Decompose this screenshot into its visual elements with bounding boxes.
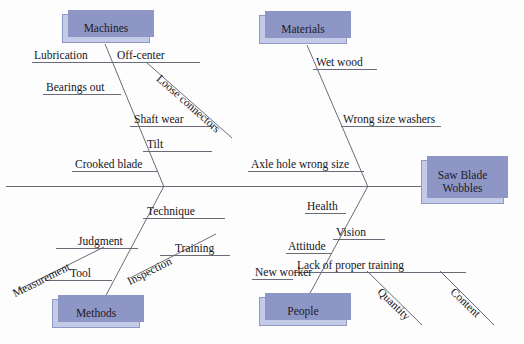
cause-label-tilt: Tilt [147,139,163,151]
cause-label-axle-hole-wrong-size: Axle hole wrong size [251,159,349,171]
category-box-machines[interactable]: Machines [62,14,150,43]
cause-label-bearings-out: Bearings out [46,82,104,94]
cause-label-lack-of-proper-training: Lack of proper training [297,260,404,272]
cause-label-wet-wood: Wet wood [316,57,363,69]
category-label-machines: Machines [84,22,129,35]
problem-label-line2: Wobbles [443,182,483,195]
category-label-materials: Materials [281,23,324,36]
problem-label-line1: Saw Blade [438,169,488,182]
fishbone-diagram: Machines Materials Methods People Saw Bl… [0,0,524,344]
cause-label-vision: Vision [336,227,366,239]
problem-box-saw-blade-wobbles[interactable]: Saw Blade Wobbles [421,160,504,204]
cause-label-technique: Technique [147,206,195,218]
category-label-methods: Methods [76,307,116,320]
category-box-people[interactable]: People [259,297,347,326]
cause-label-attitude: Attitude [288,241,326,253]
cause-label-judgment: Judgment [78,236,123,248]
cause-label-crooked-blade: Crooked blade [75,159,142,171]
cause-label-training: Training [175,243,214,255]
cause-label-health: Health [307,201,338,213]
category-box-materials[interactable]: Materials [259,15,347,44]
cause-label-new-worker: New worker [255,267,312,279]
cause-label-tool: Tool [70,268,91,280]
cause-label-lubrication: Lubrication [34,50,88,62]
category-label-people: People [287,305,318,318]
category-box-methods[interactable]: Methods [52,299,140,328]
cause-label-shaft-wear: Shaft wear [134,114,184,126]
cause-label-wrong-size-washers: Wrong size washers [343,114,435,126]
cause-label-off-center: Off-center [117,50,165,62]
